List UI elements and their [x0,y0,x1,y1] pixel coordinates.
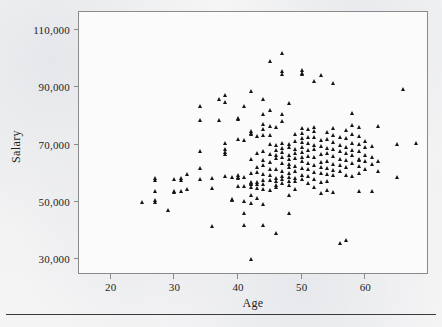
data-point [261,202,265,206]
data-point [376,159,380,163]
data-point [331,168,335,172]
data-point [325,137,329,141]
data-point [293,164,297,168]
data-point [338,143,342,147]
data-point [306,141,310,145]
data-point [255,170,259,174]
data-point [223,100,227,104]
data-point [363,159,367,163]
data-point [325,130,329,134]
data-point [268,167,272,171]
x-axis-tick: 40 [237,274,238,279]
data-point [280,161,284,165]
data-point [319,152,323,156]
data-point [223,141,227,145]
data-point [344,145,348,149]
data-point [242,199,246,203]
data-point [370,162,374,166]
data-point [331,190,335,194]
data-point [242,223,246,227]
data-point [198,177,202,181]
data-point [319,144,323,148]
data-point [274,231,278,235]
data-point [331,81,335,85]
data-point [280,51,284,55]
data-point [350,111,354,115]
data-point [242,175,246,179]
data-point [287,211,291,215]
data-point [249,157,253,161]
data-point [153,189,157,193]
y-axis-tick: 50,000 [74,201,79,202]
data-point [312,143,316,147]
data-point [198,166,202,170]
y-axis-tick-label: 70,000 [39,139,70,151]
y-axis-tick: 90,000 [74,86,79,87]
data-point [179,189,183,193]
data-point [249,193,253,197]
data-point [331,154,335,158]
data-point [312,79,316,83]
data-point [223,152,227,156]
data-point [350,174,354,178]
data-point [280,112,284,116]
data-point [401,87,405,91]
data-point [261,133,265,137]
data-point [306,148,310,152]
data-point [319,171,323,175]
data-point [223,174,227,178]
data-point [261,187,265,191]
data-point [414,141,418,145]
data-point [153,178,157,182]
data-point [249,185,253,189]
data-point [293,156,297,160]
data-point [261,172,265,176]
data-point [268,142,272,146]
data-point [153,200,157,204]
data-point [357,171,361,175]
data-point [338,241,342,245]
data-point [293,169,297,173]
x-axis-tick: 50 [301,274,302,279]
data-point [325,166,329,170]
data-point [325,188,329,192]
data-point [261,97,265,101]
data-point [255,165,259,169]
data-point [312,135,316,139]
x-axis-tick-label: 30 [169,281,180,293]
data-point [249,201,253,205]
x-axis-tick-label: 50 [296,281,307,293]
data-point [357,164,361,168]
data-point [306,161,310,165]
data-point [198,118,202,122]
data-point [293,187,297,191]
data-point [280,155,284,159]
x-axis-tick: 20 [110,274,111,279]
data-point [172,177,176,181]
y-axis-tick: 30,000 [74,258,79,259]
data-point [261,127,265,131]
data-point [287,193,291,197]
data-point [185,172,189,176]
data-point [357,158,361,162]
data-point [210,224,214,228]
data-point [300,150,304,154]
data-point [331,162,335,166]
data-point [331,173,335,177]
data-point [312,170,316,174]
x-axis-tick-label: 20 [105,281,116,293]
data-point [242,184,246,188]
data-point [268,124,272,128]
data-point [312,163,316,167]
data-point [325,159,329,163]
data-point [261,149,265,153]
data-point [293,132,297,136]
data-point [338,169,342,173]
data-point [280,119,284,123]
data-point [325,172,329,176]
data-point [350,153,354,157]
data-point [210,186,214,190]
data-point [344,128,348,132]
data-point [300,173,304,177]
data-point [376,169,380,173]
